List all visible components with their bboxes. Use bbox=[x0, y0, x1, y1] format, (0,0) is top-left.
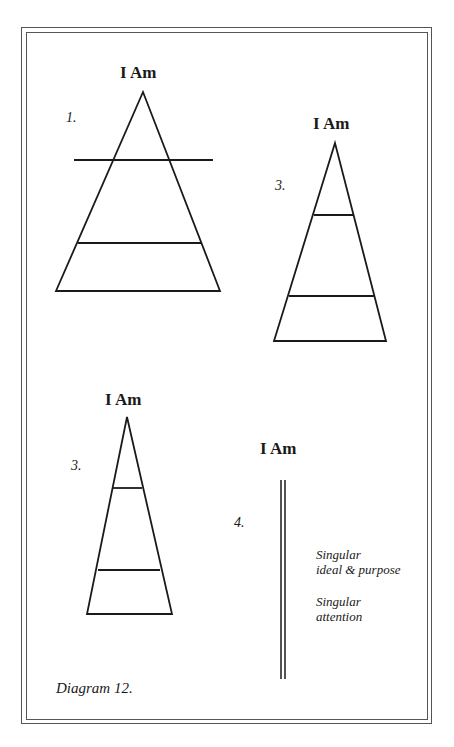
note-line: attention bbox=[316, 609, 362, 624]
triangle-3 bbox=[87, 417, 172, 614]
diagram-4-note-ideal: Singular ideal & purpose bbox=[316, 547, 401, 577]
triangle-1 bbox=[56, 92, 220, 291]
diagram-1-number: 1. bbox=[66, 110, 77, 126]
triangle-3-outline bbox=[87, 417, 172, 614]
diagram-4-number: 4. bbox=[234, 515, 245, 531]
diagram-4-note-attention: Singular attention bbox=[316, 594, 362, 624]
diagram-1-title: I Am bbox=[120, 63, 156, 83]
diagram-4-title: I Am bbox=[260, 439, 296, 459]
diagram-2-title: I Am bbox=[313, 114, 349, 134]
diagram-3-number: 3. bbox=[71, 458, 82, 474]
triangle-2 bbox=[274, 143, 386, 341]
diagram-3-title: I Am bbox=[105, 390, 141, 410]
note-line: ideal & purpose bbox=[316, 562, 401, 577]
diagram-caption: Diagram 12. bbox=[56, 680, 133, 697]
note-line: Singular bbox=[316, 547, 401, 562]
triangle-2-outline bbox=[274, 143, 386, 341]
triangle-1-outline bbox=[56, 92, 220, 291]
note-line: Singular bbox=[316, 594, 362, 609]
diagram-2-number: 3. bbox=[275, 178, 286, 194]
parallel-lines-4 bbox=[281, 480, 285, 679]
